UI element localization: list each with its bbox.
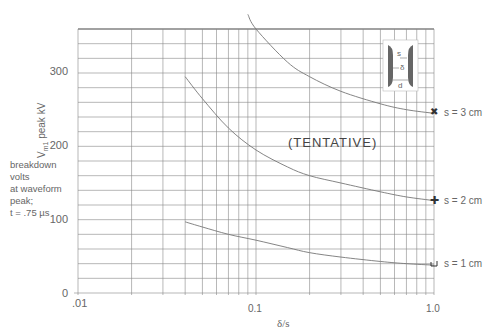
- inset-label-d: d: [398, 82, 402, 90]
- side-note-5: t = .75 µs: [10, 207, 50, 219]
- x-tick-01: 0.1: [248, 304, 262, 314]
- chart-canvas: ✖ ✚: [0, 0, 492, 331]
- y-axis-title-v: V: [36, 151, 47, 158]
- inset-label-s: s: [397, 50, 401, 58]
- x-tick-001: .01: [72, 298, 87, 309]
- y-tick-300: 300: [38, 66, 68, 77]
- x-axis-title: δ/s: [277, 318, 290, 329]
- y-axis-title-rest: peak kV: [36, 103, 47, 142]
- y-tick-0: 0: [38, 288, 68, 299]
- side-note-4: peak;: [10, 195, 33, 207]
- legend-s1: s = 1 cm: [444, 259, 482, 269]
- legend-s2: s = 2 cm: [444, 196, 482, 206]
- inset-label-delta: δ: [400, 64, 404, 72]
- side-note-1: breakdown: [10, 159, 56, 171]
- legend-s3: s = 3 cm: [444, 108, 482, 118]
- svg-text:✖: ✖: [430, 106, 438, 117]
- side-note-2: volts: [10, 171, 30, 183]
- side-note-3: at waveform: [10, 183, 62, 195]
- x-tick-1: 1.0: [426, 304, 440, 314]
- tentative-annotation: (TENTATIVE): [288, 136, 377, 149]
- grid-lines: [74, 29, 434, 295]
- y-tick-200: 200: [38, 140, 68, 151]
- svg-text:✚: ✚: [430, 194, 439, 206]
